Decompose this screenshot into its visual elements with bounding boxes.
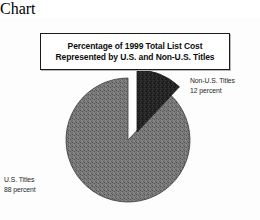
slice-label-us-titles: U.S. Titles 88 percent [4,175,36,194]
chart-title-line-1: Percentage of 1999 Total List Cost [68,41,203,52]
chart-title-line-2: Represented by U.S. and Non-U.S. Titles [56,52,215,63]
slice-label-non-us-name: Non-U.S. Titles [190,76,235,86]
slice-label-non-us-value: 12 percent [190,86,235,96]
pie-chart-figure: Percentage of 1999 Total List Cost Repre… [0,18,260,220]
pie-slice-us-titles [66,78,190,202]
chart-title-box: Percentage of 1999 Total List Cost Repre… [40,33,230,70]
slice-label-us-value: 88 percent [4,185,36,195]
slice-label-non-us-titles: Non-U.S. Titles 12 percent [190,76,235,95]
slice-label-us-name: U.S. Titles [4,175,36,185]
